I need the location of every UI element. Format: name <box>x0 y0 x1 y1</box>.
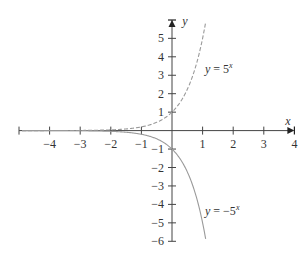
x-tick-label: −4 <box>43 137 56 151</box>
x-tick-label: −1 <box>135 137 148 151</box>
y-tick-label: 3 <box>158 68 164 82</box>
exponential-plot: −4−3−2−1123454321−1−2−3−4−5−6xyy = 5xy =… <box>0 0 308 257</box>
x-tick-label: −3 <box>74 137 87 151</box>
x-tick-label: 3 <box>261 137 267 151</box>
y-axis-label: y <box>181 14 188 28</box>
label-neg-5-pow-x: y = −5x <box>204 203 240 218</box>
y-tick-label: 4 <box>158 50 164 64</box>
x-tick-label: 2 <box>230 137 236 151</box>
y-tick-label: −1 <box>151 142 164 156</box>
y-tick-label: 2 <box>158 87 164 101</box>
x-axis-arrow-icon <box>287 127 294 134</box>
y-tick-label: 5 <box>158 31 164 45</box>
y-tick-label: 1 <box>158 105 164 119</box>
x-tick-label: 1 <box>200 137 206 151</box>
y-tick-label: −5 <box>151 216 164 230</box>
x-tick-label: −2 <box>104 137 117 151</box>
x-tick-label: 4 <box>291 137 297 151</box>
y-tick-label: −2 <box>151 161 164 175</box>
label-5-pow-x: y = 5x <box>204 61 233 76</box>
y-tick-label: −4 <box>151 197 164 211</box>
y-tick-label: −3 <box>151 179 164 193</box>
x-axis-label: x <box>284 114 291 128</box>
curve-5-pow-x <box>22 22 206 130</box>
y-tick-label: −6 <box>151 234 164 248</box>
y-axis-arrow-icon <box>169 20 176 27</box>
